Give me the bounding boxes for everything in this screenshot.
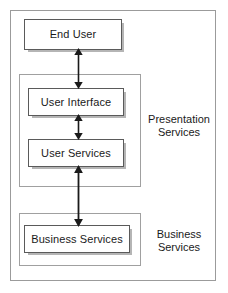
connector-user-interface-to-user-services xyxy=(70,114,87,140)
node-user-services-label: User Services xyxy=(41,148,111,159)
tier-label-presentation-services: Presentation Services xyxy=(146,113,212,139)
connector-user-services-to-business-services xyxy=(70,165,87,227)
node-end-user-label: End User xyxy=(50,29,97,40)
node-user-interface-label: User Interface xyxy=(41,97,111,108)
node-business-services-label: Business Services xyxy=(31,234,123,245)
architecture-diagram: End User User Interface User Services Bu… xyxy=(0,0,228,293)
node-user-interface[interactable]: User Interface xyxy=(28,88,124,116)
connector-end-user-to-user-interface xyxy=(70,48,87,89)
node-end-user[interactable]: End User xyxy=(24,19,122,50)
node-user-services[interactable]: User Services xyxy=(28,139,124,167)
tier-label-business-services: Business Services xyxy=(146,228,212,254)
node-business-services[interactable]: Business Services xyxy=(24,225,130,253)
